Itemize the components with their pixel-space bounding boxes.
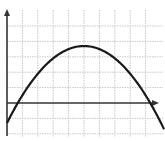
y-axis-arrow-icon <box>4 9 10 16</box>
x-axis-arrow-icon <box>152 100 159 106</box>
grid-lines <box>7 10 163 137</box>
parabola-chart <box>0 0 165 141</box>
